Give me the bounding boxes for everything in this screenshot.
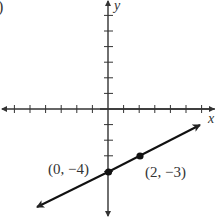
point-2-neg3 <box>136 152 143 159</box>
panel-label: ) <box>0 0 3 16</box>
y-axis-label: y <box>112 0 121 13</box>
x-axis-label: x <box>207 111 215 126</box>
point-label-0-neg4: (0, −4) <box>48 161 89 178</box>
coordinate-graph: ) x y (0, −4) (2, −3) <box>0 0 218 217</box>
y-axis: y <box>104 0 121 216</box>
point-label-2-neg3: (2, −3) <box>145 164 186 181</box>
point-0-neg4 <box>105 168 112 175</box>
